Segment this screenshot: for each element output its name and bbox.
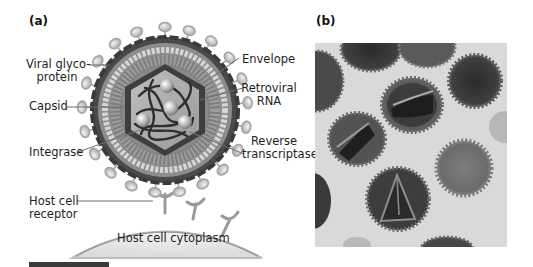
label-retroviral-rna: Retroviral RNA — [240, 82, 298, 108]
label-capsid: Capsid — [29, 100, 68, 113]
label-envelope: Envelope — [242, 53, 295, 66]
label-viral-glycoprotein: Viral glyco- protein — [26, 58, 88, 84]
virus-particle — [77, 23, 252, 198]
host-cell-receptors — [157, 193, 238, 236]
label-host-cell-receptor: Host cell receptor — [29, 195, 79, 221]
panel-b-label: (b) — [316, 14, 336, 28]
scale-bar — [29, 262, 109, 267]
label-integrase: Integrase — [29, 146, 83, 159]
label-host-cell-cytoplasm: Host cell cytoplasm — [117, 232, 230, 245]
electron-micrograph — [315, 43, 507, 247]
label-reverse-transcriptase: Reverse transcriptase — [242, 135, 306, 161]
